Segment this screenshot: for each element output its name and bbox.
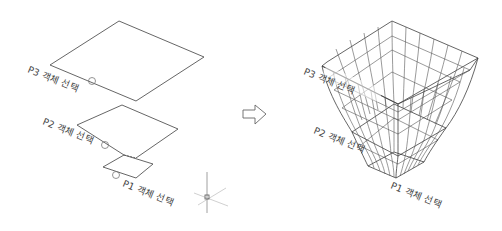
right-panel: P3 객체 선택 P2 객체 선택 P1 객체 선택 [302, 21, 478, 210]
p2-edges-top [77, 105, 178, 129]
mesh-long-back [392, 21, 394, 152]
loft-wireframe-mesh [322, 21, 478, 178]
p3-pick-circle-icon [89, 78, 96, 85]
result-p1-label: P1 객체 선택 [389, 180, 443, 210]
p1-quad [103, 155, 153, 178]
p1-label: P1 객체 선택 [121, 178, 175, 208]
ucs-crosshair-icon [194, 172, 228, 213]
profile-p1 [103, 155, 153, 179]
loft-diagram: P3 객체 선택 P2 객체 선택 P1 객체 선택 [0, 0, 502, 231]
mesh-long-front [396, 104, 398, 178]
p2-edge-right [136, 129, 178, 158]
profile-p2 [77, 105, 178, 158]
right-arrow-icon [243, 105, 266, 124]
mesh-ring-1 [328, 36, 470, 112]
p1-pick-circle-icon [113, 172, 120, 179]
left-panel: P3 객체 선택 P2 객체 선택 P1 객체 선택 [26, 21, 228, 213]
result-p2-label: P2 객체 선택 [312, 125, 366, 155]
p3-label: P3 객체 선택 [26, 64, 80, 94]
